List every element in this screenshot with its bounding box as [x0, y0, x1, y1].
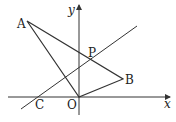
point-a-label: A [16, 17, 26, 31]
y-axis-label: y [67, 3, 75, 17]
x-axis-label: x [164, 97, 171, 111]
point-b-label: B [125, 73, 134, 87]
geometry-diagram: y x A P B C O [0, 0, 176, 122]
point-c-label: C [35, 98, 44, 112]
point-o-label: O [67, 98, 77, 112]
point-p-label: P [88, 46, 96, 60]
triangle-aob [27, 21, 123, 97]
